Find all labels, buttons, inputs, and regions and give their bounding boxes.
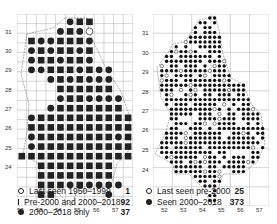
legend-label: Last seen 1950–1999 [29, 186, 111, 197]
legend-row-seen-2000-2018: Seen 2000–2018373 [146, 197, 244, 208]
right-x-label: 54 [199, 207, 206, 213]
right-x-label: 56 [237, 207, 244, 213]
open-circle-icon [18, 188, 24, 194]
left-y-label: 26 [5, 125, 12, 131]
right-x-label: 52 [161, 207, 168, 213]
right-y-label: 25 [142, 147, 149, 153]
right-y-label: 24 [142, 167, 149, 173]
legend-count: 25 [235, 186, 244, 197]
right-x-label: 55 [218, 207, 225, 213]
left-region-outline [21, 18, 131, 206]
filled-circle-icon [18, 209, 24, 215]
right-x-label: 53 [180, 207, 187, 213]
right-x-label: 57 [256, 207, 263, 213]
legend-count: 37 [121, 207, 130, 218]
legend-label: Last seen pre-2000 [157, 186, 230, 197]
legend-row-post-only: 2000–2018 only37 [18, 207, 130, 218]
filled-square-icon [18, 199, 19, 205]
left-distribution-map [17, 14, 133, 206]
right-y-label: 30 [142, 50, 149, 56]
legend-count: 1 [125, 186, 130, 197]
left-y-label: 27 [5, 106, 12, 112]
left-y-label: 28 [5, 87, 12, 93]
legend-label: 2000–2018 only [29, 207, 90, 218]
legend-label: Pre-2000 and 2000–2018 [24, 197, 120, 208]
legend-row-pre-2000: Last seen pre-200025 [146, 186, 244, 197]
right-distribution-map [153, 14, 269, 206]
legend-label: Seen 2000–2018 [157, 197, 222, 208]
open-circle-icon [146, 188, 152, 194]
left-y-label: 29 [5, 67, 12, 73]
left-y-label: 24 [5, 164, 12, 170]
filled-circle-icon [146, 199, 152, 205]
right-legend: Last seen pre-200025 Seen 2000–2018373 [146, 186, 244, 207]
right-y-label: 31 [142, 30, 149, 36]
legend-count: 373 [230, 197, 244, 208]
right-y-label: 26 [142, 127, 149, 133]
left-legend: Last seen 1950–19991 Pre-2000 and 2000–2… [18, 186, 130, 218]
right-y-label: 28 [142, 89, 149, 95]
legend-count: 92 [121, 197, 130, 208]
left-y-label: 30 [5, 48, 12, 54]
right-y-label: 27 [142, 108, 149, 114]
legend-row-last-seen: Last seen 1950–19991 [18, 186, 130, 197]
left-y-label: 25 [5, 145, 12, 151]
legend-row-pre-and-post: Pre-2000 and 2000–201892 [18, 197, 130, 208]
left-y-label: 31 [5, 29, 12, 35]
right-y-label: 29 [142, 69, 149, 75]
